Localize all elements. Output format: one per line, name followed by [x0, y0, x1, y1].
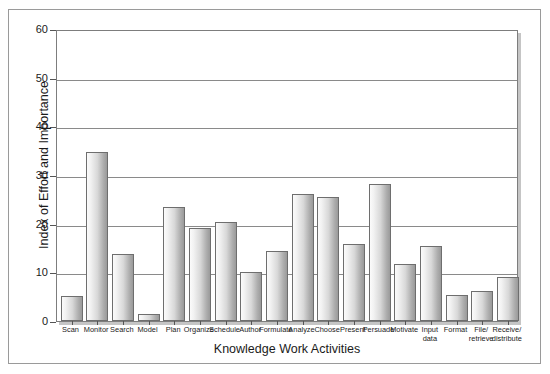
- y-tick-label-40: 40: [8, 121, 48, 132]
- plot-area: [56, 30, 518, 322]
- x-category-label: Receive/ distribute: [487, 326, 527, 343]
- bar: [343, 244, 365, 321]
- bar: [266, 251, 288, 321]
- gridline-20: [57, 226, 517, 227]
- y-tick-label-10: 10: [8, 267, 48, 278]
- bar: [292, 194, 314, 321]
- bar: [112, 254, 134, 321]
- bar: [420, 246, 442, 321]
- bar: [61, 296, 83, 321]
- y-tick-mark-0: [50, 322, 56, 323]
- gridline-30: [57, 177, 517, 178]
- gridline-50: [57, 80, 517, 81]
- y-tick-label-0: 0: [8, 316, 48, 327]
- y-tick-label-20: 20: [8, 219, 48, 230]
- y-tick-label-60: 60: [8, 24, 48, 35]
- bar: [497, 277, 519, 321]
- y-tick-label-30: 30: [8, 170, 48, 181]
- bar: [446, 295, 468, 321]
- bar: [86, 152, 108, 321]
- bar: [189, 228, 211, 321]
- bar: [240, 272, 262, 321]
- bar: [369, 184, 391, 321]
- chart-figure: 0102030405060 Index of Effort and Import…: [0, 0, 550, 374]
- bar: [163, 207, 185, 321]
- bar: [471, 291, 493, 321]
- gridline-40: [57, 128, 517, 129]
- bar: [394, 264, 416, 321]
- bar: [138, 314, 160, 321]
- bar: [317, 197, 339, 321]
- y-tick-label-50: 50: [8, 73, 48, 84]
- bar: [215, 222, 237, 321]
- x-axis-title: Knowledge Work Activities: [56, 342, 518, 356]
